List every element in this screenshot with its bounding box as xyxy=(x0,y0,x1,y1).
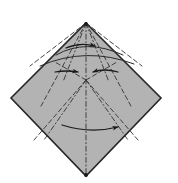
origami-diagram-svg xyxy=(0,0,178,183)
origami-diagram-root xyxy=(0,0,178,183)
apex-dot xyxy=(84,22,88,26)
bottom-dot xyxy=(84,173,88,177)
